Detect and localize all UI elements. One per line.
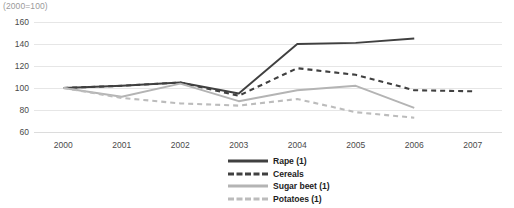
series-line: [63, 68, 473, 96]
legend-swatch-icon: [228, 156, 268, 167]
y-tick-label: 60: [0, 127, 29, 137]
legend-swatch-icon: [228, 168, 268, 179]
legend-item-label: Rape (1): [273, 156, 307, 166]
series-layer: [34, 22, 502, 132]
x-tick-label: 2007: [463, 140, 482, 150]
chart-legend: Rape (1)CerealsSugar beet (1)Potatoes (1…: [228, 155, 418, 205]
x-tick-label: 2004: [288, 140, 307, 150]
series-line: [63, 84, 414, 108]
index-line-chart: (2000=100) 6080100120140160 200020012002…: [0, 0, 514, 208]
legend-item-potatoes[interactable]: Potatoes (1): [228, 193, 418, 206]
y-tick-label: 100: [0, 83, 29, 93]
gridline: [34, 132, 502, 133]
legend-swatch-icon: [228, 181, 268, 192]
y-tick-label: 80: [0, 105, 29, 115]
legend-swatch-icon: [228, 193, 268, 204]
y-tick-label: 140: [0, 39, 29, 49]
series-line: [63, 39, 414, 94]
legend-item-rape[interactable]: Rape (1): [228, 155, 418, 168]
legend-item-label: Sugar beet (1): [273, 181, 330, 191]
x-tick-label: 2001: [112, 140, 131, 150]
y-tick-label: 160: [0, 17, 29, 27]
x-tick-label: 2000: [54, 140, 73, 150]
x-tick-label: 2003: [229, 140, 248, 150]
x-tick-label: 2002: [171, 140, 190, 150]
legend-item-label: Cereals: [273, 169, 304, 179]
legend-item-sugar_beet[interactable]: Sugar beet (1): [228, 180, 418, 193]
plot-area: 6080100120140160 20002001200220032004200…: [34, 22, 502, 132]
legend-item-cereals[interactable]: Cereals: [228, 168, 418, 181]
y-tick-label: 120: [0, 61, 29, 71]
x-tick-label: 2005: [346, 140, 365, 150]
legend-item-label: Potatoes (1): [273, 194, 322, 204]
x-tick-label: 2006: [405, 140, 424, 150]
index-base-note: (2000=100): [3, 1, 48, 11]
